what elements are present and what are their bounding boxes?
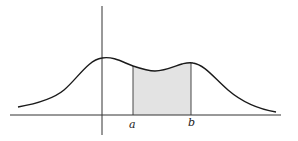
label-b: b bbox=[188, 117, 195, 128]
label-a: a bbox=[129, 119, 136, 130]
area-under-curve-diagram: a b bbox=[0, 0, 298, 141]
